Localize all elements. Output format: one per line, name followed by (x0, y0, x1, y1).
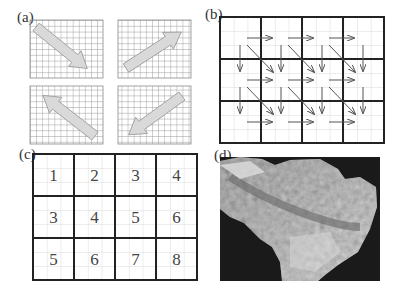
cell-r1-c4: 4 (156, 167, 197, 184)
cell-r1-c2: 2 (74, 167, 115, 184)
cell-r2-c4: 6 (156, 209, 197, 226)
cell-r1-c3: 3 (115, 167, 156, 184)
cell-r1-c1: 1 (33, 167, 74, 184)
cell-r3-c2: 6 (74, 251, 115, 268)
cell-r2-c1: 3 (33, 209, 74, 226)
terrain-relief-map (220, 157, 380, 281)
cell-r3-c3: 7 (115, 251, 156, 268)
cell-r3-c4: 8 (156, 251, 197, 268)
cell-r3-c1: 5 (33, 251, 74, 268)
cell-r2-c3: 5 (115, 209, 156, 226)
cell-r2-c2: 4 (74, 209, 115, 226)
